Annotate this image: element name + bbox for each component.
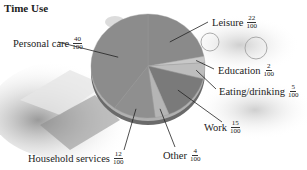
- label-eating-drinking: Eating/drinking 5100: [219, 84, 298, 99]
- label-education: Education 2100: [218, 63, 274, 78]
- label-household-services: Household services 12100: [28, 151, 123, 166]
- label-leisure: Leisure 22100: [212, 15, 257, 30]
- label-personal-care: Personal care 40100: [13, 36, 83, 51]
- label-other: Other 4100: [163, 148, 200, 163]
- label-work: Work 15100: [204, 120, 241, 135]
